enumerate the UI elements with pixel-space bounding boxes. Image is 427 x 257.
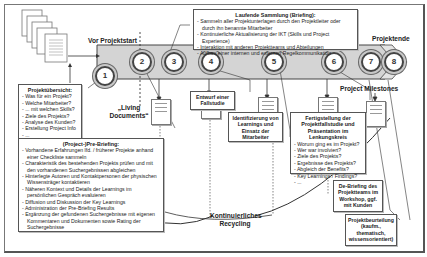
project-assessment-box: Projektbeurteilung (kaufm., thematisch, … — [345, 214, 397, 246]
learnings-box: Identifizierung von Learnings und Einsat… — [228, 112, 283, 142]
case-completion-box: Fertigstellung der Projektfallstudie und… — [290, 112, 366, 174]
prebriefing-item: Hinterlegte Autoren und Kontaktpersonen … — [22, 173, 160, 186]
milestone-3[interactable]: 3 — [164, 52, 184, 72]
document-icon — [366, 101, 386, 127]
prebriefing-item: Näheren Kontext und Details der Learning… — [22, 186, 160, 199]
ongoing-item: Aufbau einer internen und externen Regel… — [197, 50, 354, 56]
ongoing-item: Kontinuierliche Aktualisierung der IKT (… — [197, 31, 354, 44]
living-documents-label: „Living Documents“ — [104, 104, 154, 120]
case-draft-box: Entwurf einer Fallstudie — [190, 91, 235, 110]
ongoing-item: Sammeln aller Projektunterlagen durch de… — [197, 18, 354, 31]
overview-item: Erstellung Project Info — [22, 125, 78, 131]
ongoing-collection-box: Laufende Sammlung (Briefing): Sammeln al… — [193, 9, 358, 50]
completion-item: Key Learnings / Findings? — [294, 173, 362, 179]
pre-briefing-box: (Project-)Pre-Briefing: Vorhandene Erfah… — [18, 138, 164, 232]
milestones-label: Project Milestones — [340, 85, 398, 92]
milestone-1[interactable]: 1 — [95, 66, 115, 86]
overview-item: Was für ein Projekt? — [22, 93, 78, 99]
prebriefing-item: Charakteristik des bestehenden Projekts … — [22, 160, 160, 173]
recycling-label: Kontinuierliches Recycling — [210, 212, 260, 228]
project-end-label: Projektende — [372, 35, 410, 42]
document-icon — [151, 99, 171, 125]
prebriefing-item: Vorhandene Erfahrungen lfd. / früherer P… — [22, 147, 160, 160]
completion-title: Fertigstellung der Projektfallstudie und… — [294, 115, 362, 141]
pre-start-label: Vor Projektstart — [88, 37, 137, 44]
overview-item: ... mit welchen Skills? — [22, 106, 78, 112]
debriefing-box: De-Briefing des Projektteams im Workshop… — [333, 180, 383, 212]
milestone-8[interactable]: 8 — [384, 52, 404, 72]
milestone-2[interactable]: 2 — [132, 52, 152, 72]
milestone-7[interactable]: 7 — [361, 52, 381, 72]
prebriefing-item: Ergänzung der gefundenen Suchergebnisse … — [22, 211, 160, 230]
document-stack-icon — [22, 10, 67, 62]
project-overview-box: Projektübersicht: Was für ein Projekt? W… — [18, 84, 82, 139]
